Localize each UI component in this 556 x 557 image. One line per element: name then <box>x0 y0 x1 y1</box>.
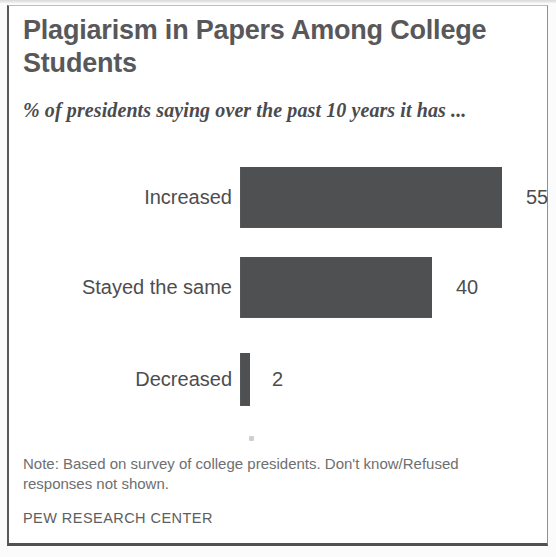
scan-speck-artifact <box>249 436 254 441</box>
bar-rect <box>240 257 432 318</box>
bar-value-label: 55 <box>526 186 548 209</box>
bar-chart-plot-area: Increased 55 Stayed the same 40 Decrease… <box>9 161 547 426</box>
bar-row: Increased 55 <box>9 161 547 233</box>
chart-source-attribution: PEW RESEARCH CENTER <box>23 510 213 526</box>
chart-card: Plagiarism in Papers Among College Stude… <box>7 5 548 546</box>
bar-category-label: Stayed the same <box>9 276 232 299</box>
bar-track: 2 <box>240 343 547 415</box>
bar-value-label: 40 <box>456 276 478 299</box>
bar-rect <box>240 353 250 406</box>
bar-track: 55 <box>240 161 547 233</box>
scan-top-edge-artifact <box>0 0 556 3</box>
bar-category-label: Increased <box>9 186 232 209</box>
chart-note: Note: Based on survey of college preside… <box>23 454 463 494</box>
bar-rect <box>240 167 502 228</box>
bar-row: Decreased 2 <box>9 343 547 415</box>
bar-value-label: 2 <box>272 368 283 391</box>
chart-subtitle: % of presidents saying over the past 10 … <box>23 99 543 122</box>
bar-row: Stayed the same 40 <box>9 251 547 323</box>
chart-title: Plagiarism in Papers Among College Stude… <box>23 14 493 80</box>
bar-category-label: Decreased <box>9 368 232 391</box>
bar-track: 40 <box>240 251 547 323</box>
scanned-page: Plagiarism in Papers Among College Stude… <box>0 0 556 557</box>
